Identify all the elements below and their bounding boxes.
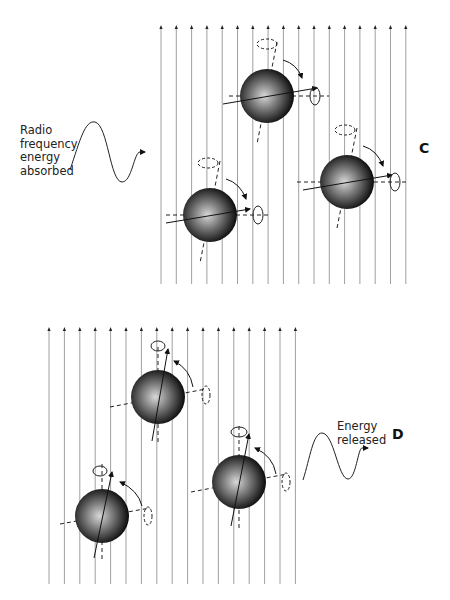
field-arrowhead-icon	[312, 25, 315, 29]
field-arrowhead-icon	[63, 327, 66, 331]
rf-wave-absorbed	[70, 122, 145, 182]
panel-label-d: D	[392, 426, 404, 442]
field-arrowhead-icon	[374, 25, 377, 29]
field-arrowhead-icon	[171, 327, 174, 331]
field-arrowhead-icon	[343, 25, 346, 29]
field-arrowhead-icon	[175, 25, 178, 29]
field-arrowhead-icon	[236, 25, 239, 29]
field-arrowhead-icon	[328, 25, 331, 29]
field-arrowhead-icon	[404, 25, 407, 29]
field-arrowhead-icon	[205, 25, 208, 29]
proton-c-1	[223, 39, 329, 144]
rf-absorbed-label: Radio frequency energy absorbed	[20, 124, 78, 178]
field-arrowhead-icon	[47, 327, 50, 331]
field-arrowhead-icon	[140, 327, 143, 331]
field-arrowhead-icon	[267, 25, 270, 29]
magnetic-field-lines-c	[159, 25, 407, 284]
proton-d-3	[191, 426, 290, 530]
field-arrowhead-icon	[124, 327, 127, 331]
field-arrowhead-icon	[248, 327, 251, 331]
proton-d-2	[60, 464, 152, 560]
field-arrowhead-icon	[190, 25, 193, 29]
field-arrowhead-icon	[78, 327, 81, 331]
field-arrowhead-icon	[201, 327, 204, 331]
panel-label-c: C	[419, 140, 429, 156]
proton-d-1	[110, 341, 210, 443]
field-arrowhead-icon	[94, 327, 97, 331]
field-arrowhead-icon	[251, 25, 254, 29]
field-arrowhead-icon	[282, 25, 285, 29]
field-arrowhead-icon	[155, 327, 158, 331]
field-arrowhead-icon	[232, 327, 235, 331]
field-arrowhead-icon	[109, 327, 112, 331]
field-arrowhead-icon	[297, 25, 300, 29]
nmr-diagram	[0, 0, 450, 600]
field-arrowhead-icon	[159, 25, 162, 29]
field-arrowhead-icon	[294, 327, 297, 331]
magnetic-field-lines-d	[47, 327, 297, 584]
field-arrowhead-icon	[358, 25, 361, 29]
field-arrowhead-icon	[263, 327, 266, 331]
field-arrowhead-icon	[389, 25, 392, 29]
field-arrowhead-icon	[221, 25, 224, 29]
field-arrowhead-icon	[186, 327, 189, 331]
field-arrowhead-icon	[217, 327, 220, 331]
field-arrowhead-icon	[278, 327, 281, 331]
energy-released-label: Energy released	[337, 420, 386, 447]
